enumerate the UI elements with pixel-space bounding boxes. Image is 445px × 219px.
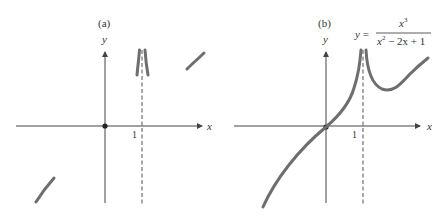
panel-a-origin-point	[102, 123, 107, 128]
figure-canvas: (a) y x 1 (b) y y = x3 x2 − 2x + 1 x	[0, 0, 445, 219]
equation-lhs: y =	[354, 28, 369, 40]
equation: y = x3 x2 − 2x + 1	[354, 16, 431, 47]
panel-a-curve-lower-left	[36, 178, 54, 202]
panel-a-label: (a)	[98, 17, 111, 30]
panel-a-curve-right-of-asymptote	[145, 50, 148, 75]
panel-b-curve-left-branch	[263, 50, 361, 207]
equation-numerator: x3	[398, 16, 408, 29]
panel-b: (b) y y = x3 x2 − 2x + 1 x 1	[234, 16, 432, 207]
panel-b-curve-right-branch	[366, 50, 428, 90]
panel-b-tick-label: 1	[352, 129, 357, 140]
panel-b-label: (b)	[318, 17, 331, 30]
panel-a-tick-label: 1	[132, 129, 137, 140]
panel-a-y-label: y	[101, 33, 107, 45]
panel-b-x-label: x	[426, 120, 432, 132]
panel-a-curve-left-of-asymptote	[137, 50, 140, 75]
panel-a-curve-upper-right	[187, 53, 204, 69]
panel-a-x-label: x	[206, 120, 212, 132]
panel-b-y-label: y	[322, 33, 328, 45]
panel-a: (a) y x 1	[16, 17, 212, 204]
equation-denominator: x2 − 2x + 1	[376, 34, 425, 47]
